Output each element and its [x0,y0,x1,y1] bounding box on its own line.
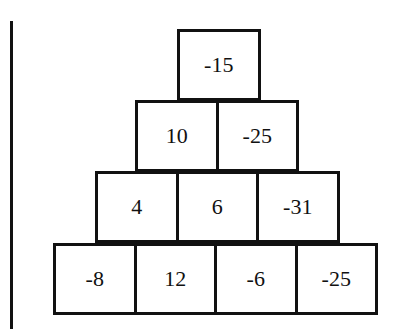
pyramid-cell: -6 [214,243,298,315]
pyramid-cell: 12 [134,243,218,315]
pyramid-cell: -8 [53,243,137,315]
pyramid-row-3: 4 6 -31 [95,171,340,243]
pyramid-cell: -25 [295,243,379,315]
pyramid-cell: 10 [135,100,219,172]
pyramid-row-1: -15 [177,29,261,101]
pyramid-cell: -15 [177,29,261,101]
pyramid-row-4: -8 12 -6 -25 [53,243,378,315]
pyramid-row-2: 10 -25 [135,100,299,172]
pyramid-cell: 6 [176,171,260,243]
pyramid-cell: 4 [95,171,179,243]
pyramid-cell: -31 [256,171,340,243]
number-pyramid: -15 10 -25 4 6 -31 -8 12 -6 -25 [0,0,409,336]
pyramid-cell: -25 [216,100,300,172]
